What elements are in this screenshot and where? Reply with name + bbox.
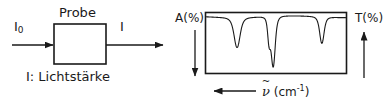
transmittance-axis-label: T(%) [355, 12, 383, 24]
absorbance-axis-label: A(%) [175, 12, 204, 24]
spectroscopy-figure: I0 Probe I I: Lichtstärke A(%) T(%) ~ν (… [0, 0, 389, 110]
incident-intensity-label: I0 [14, 20, 24, 35]
wavenumber-axis-label: ~ν (cm-1) [262, 85, 309, 98]
intensity-caption: I: Lichtstärke [26, 70, 110, 83]
transmitted-intensity-label: I [120, 20, 124, 33]
sample-box [54, 24, 106, 64]
sample-box-label: Probe [59, 6, 96, 19]
spectrum-curve [207, 16, 346, 67]
nu-tilde-symbol: ~ν [262, 85, 270, 98]
